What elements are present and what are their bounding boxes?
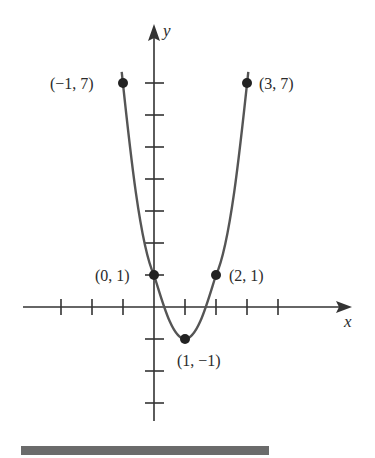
point-neg1-7 [118,78,128,88]
graph-canvas: x y [0,0,375,458]
label-2-1: (2, 1) [229,267,264,285]
label-3-7: (3, 7) [259,75,294,93]
parabola-graph: x y [0,0,375,458]
parabola-curve [122,72,249,339]
label-neg1-7: (−1, 7) [50,75,94,93]
label-1-neg1: (1, −1) [177,352,221,370]
caption-bar [21,446,269,455]
point-2-1 [211,270,221,280]
point-0-1 [149,270,159,280]
y-axis: y [145,21,171,421]
x-axis: x [23,299,352,331]
point-1-neg1 [180,334,190,344]
y-axis-label: y [161,21,171,40]
point-3-7 [242,78,252,88]
label-0-1: (0, 1) [95,267,130,285]
x-axis-label: x [343,312,352,331]
